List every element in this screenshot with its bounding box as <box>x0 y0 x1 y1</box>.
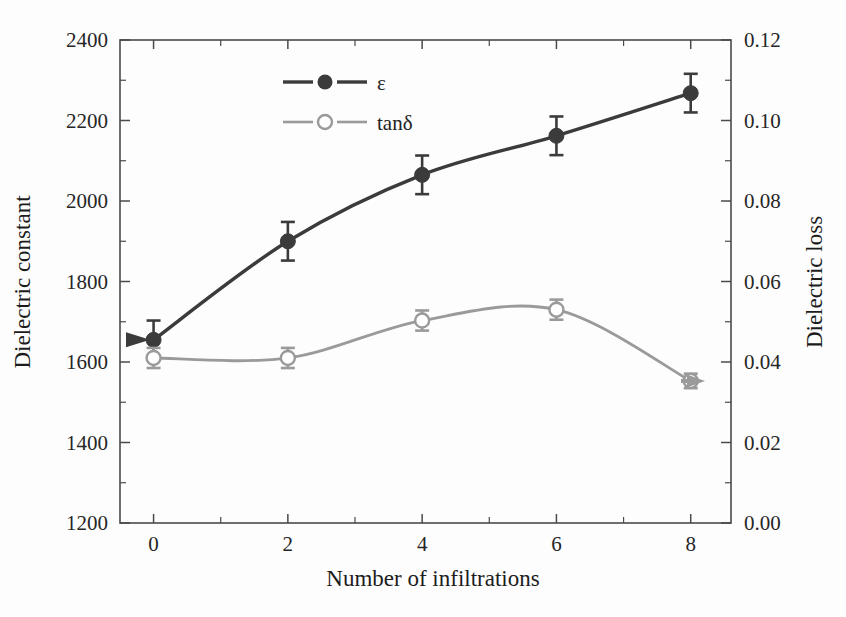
legend-label: ε <box>377 71 386 95</box>
y-left-tick-label: 1200 <box>66 511 108 535</box>
series-line <box>154 93 691 340</box>
data-point-marker[interactable] <box>147 351 161 365</box>
y-right-tick-label: 0.12 <box>744 28 781 52</box>
chart-svg: 02468 1200140016001800200022002400 0.000… <box>0 0 846 617</box>
x-tick-label: 6 <box>551 532 562 556</box>
x-tick-label: 4 <box>417 532 428 556</box>
y-right-tick-label: 0.02 <box>744 431 781 455</box>
x-tick-label: 0 <box>148 532 159 556</box>
y-left-axis-label: Dielectric constant <box>10 195 35 369</box>
legend-label: tanδ <box>377 111 413 135</box>
y-left-tick-label: 1600 <box>66 350 108 374</box>
y-left-tick-label: 2200 <box>66 109 108 133</box>
figure-canvas: 02468 1200140016001800200022002400 0.000… <box>0 0 846 617</box>
x-tick-label: 2 <box>283 532 294 556</box>
y-left-tick-label: 1400 <box>66 431 108 455</box>
x-axis-label: Number of infiltrations <box>326 566 539 591</box>
data-point-marker[interactable] <box>549 303 563 317</box>
data-series-layer <box>146 74 698 388</box>
y-right-tick-label: 0.10 <box>744 109 781 133</box>
y-right-axis-label: Dielectric loss <box>802 216 827 348</box>
y-right-axis-ticks: 0.000.020.040.060.080.100.12 <box>721 28 781 535</box>
plot-border <box>120 40 731 523</box>
y-left-tick-label: 2400 <box>66 28 108 52</box>
data-point-marker[interactable] <box>683 86 698 101</box>
data-point-marker[interactable] <box>415 167 430 182</box>
legend-item-epsilon[interactable]: ε <box>283 71 386 95</box>
y-left-tick-label: 2000 <box>66 189 108 213</box>
y-right-tick-label: 0.08 <box>744 189 781 213</box>
chart-legend[interactable]: εtanδ <box>283 71 413 135</box>
data-point-marker[interactable] <box>281 351 295 365</box>
x-tick-label: 8 <box>685 532 696 556</box>
legend-marker-filled-circle-icon <box>318 75 333 90</box>
data-point-marker[interactable] <box>549 128 564 143</box>
left-arrow-to-epsilon-icon <box>126 332 150 347</box>
y-left-tick-label: 1800 <box>66 270 108 294</box>
legend-marker-open-circle-icon <box>318 115 332 129</box>
series-tand <box>147 300 698 389</box>
y-right-tick-label: 0.04 <box>744 350 781 374</box>
data-point-marker[interactable] <box>415 314 429 328</box>
data-point-marker[interactable] <box>280 234 295 249</box>
legend-item-tand[interactable]: tanδ <box>283 111 413 135</box>
y-right-tick-label: 0.00 <box>744 511 781 535</box>
y-right-tick-label: 0.06 <box>744 270 781 294</box>
plot-frame <box>120 40 731 523</box>
